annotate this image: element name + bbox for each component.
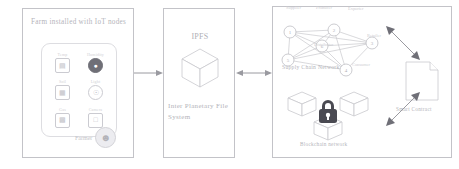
sensor-cell: Humidity ●: [79, 49, 112, 76]
farm-title: Farm installed with IoT nodes: [31, 17, 131, 28]
architecture-diagram: Farm installed with IoT nodes Temp ▤ Hum…: [0, 0, 459, 169]
graph-node-label: Supplier: [286, 5, 301, 10]
padlock-icon: [319, 100, 337, 123]
sensor-cell: Temp ▤: [46, 49, 79, 76]
sensor-label: Soil: [59, 79, 66, 84]
humidity-icon: ●: [88, 58, 103, 73]
camera-icon: □: [88, 113, 103, 128]
cube-icon: [180, 47, 220, 89]
sensor-cell: Light ☉: [79, 76, 112, 103]
graph-node-label: Exporter: [348, 6, 363, 11]
gas-sensor-icon: ▩: [55, 113, 70, 128]
sensor-label: Temp: [58, 52, 68, 57]
connector-chain-to-blockchain: [386, 92, 420, 126]
sensor-cell: Soil ▦: [46, 76, 79, 103]
blockchain-cluster: [288, 86, 374, 142]
sensor-label: Camera: [89, 107, 103, 112]
iot-sensor-grid: Temp ▤ Humidity ● Soil ▦ Light ☉ Gas ▩: [46, 49, 112, 131]
farmer-avatar-icon: ☻: [95, 127, 116, 148]
connector-chain-to-contract: [386, 26, 420, 60]
iot-node-card: Temp ▤ Humidity ● Soil ▦ Light ☉ Gas ▩: [41, 43, 117, 137]
graph-node-label: Producer: [316, 5, 332, 10]
supply-chain-network-label: Supply Chain Network: [282, 62, 340, 73]
light-sensor-icon: ☉: [88, 85, 103, 100]
farmer-label: Farmer: [75, 135, 92, 141]
sensor-label: Light: [91, 79, 101, 84]
connector-ipfs-to-chain: [236, 68, 272, 78]
blockchain-network-label: Blockchain network: [300, 139, 347, 150]
panel-ipfs: IPFS Inter Planetary File System: [163, 8, 235, 158]
graph-node-label: Distributor: [314, 42, 333, 47]
panel-farm: Farm installed with IoT nodes Temp ▤ Hum…: [22, 8, 134, 158]
ipfs-caption: Inter Planetary File System: [168, 101, 232, 123]
farmer-group: Farmer ☻: [75, 127, 116, 148]
graph-node-label: Retailer: [367, 33, 381, 38]
connector-farm-to-ipfs: [134, 68, 164, 78]
sensor-label: Gas: [59, 107, 66, 112]
graph-node-label: Consumer: [352, 62, 370, 67]
soil-sensor-icon: ▦: [55, 85, 70, 100]
sensor-label: Humidity: [87, 52, 104, 57]
ipfs-title: IPFS: [164, 31, 236, 42]
thermometer-icon: ▤: [55, 58, 70, 73]
